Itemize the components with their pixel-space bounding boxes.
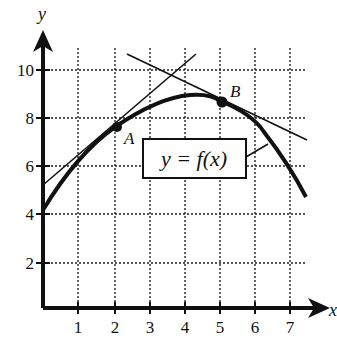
- svg-text:4: 4: [181, 318, 190, 337]
- svg-text:6: 6: [251, 318, 260, 337]
- point-b: [217, 97, 228, 108]
- point-a: [112, 122, 122, 132]
- x-axis-label: x: [328, 300, 337, 320]
- y-axis-label: y: [36, 4, 46, 24]
- x-tick-labels: 1 2 3 4 5 6 7: [74, 318, 295, 337]
- svg-text:6: 6: [26, 157, 35, 176]
- svg-text:10: 10: [17, 61, 34, 80]
- svg-text:5: 5: [216, 318, 225, 337]
- y-tick-labels: 2 4 6 8 10: [17, 61, 35, 273]
- svg-text:2: 2: [111, 318, 120, 337]
- svg-text:8: 8: [26, 109, 35, 128]
- label-leader-line: [246, 144, 268, 157]
- svg-text:2: 2: [26, 254, 35, 273]
- svg-text:1: 1: [74, 318, 83, 337]
- function-label: y = f(x): [159, 146, 227, 171]
- svg-text:4: 4: [26, 205, 35, 224]
- graph: 1 2 3 4 5 6 7 2 4 6 8 10 y x A B y = f(x…: [0, 0, 337, 341]
- ticks: [36, 70, 290, 314]
- svg-text:7: 7: [286, 318, 295, 337]
- point-b-label: B: [230, 82, 241, 101]
- point-a-label: A: [123, 129, 135, 148]
- svg-text:3: 3: [146, 318, 155, 337]
